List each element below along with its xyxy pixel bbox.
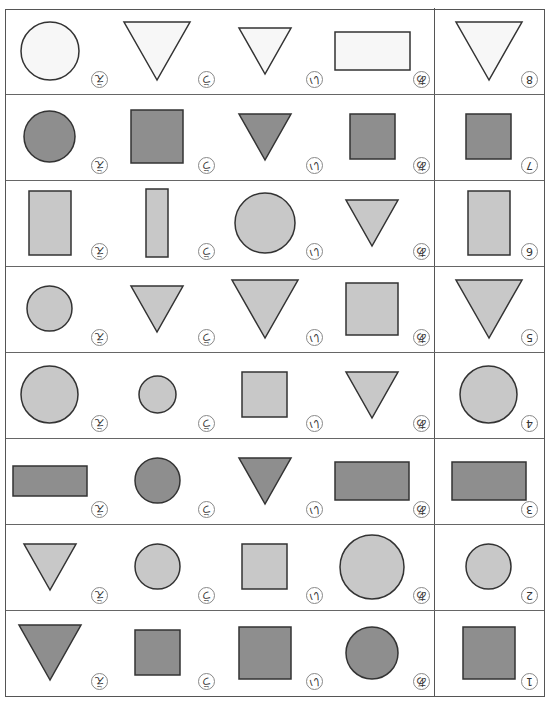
reference-square-icon: [467, 115, 512, 160]
option-cell-3[interactable]: え: [4, 353, 112, 438]
option-label-badge: あ: [413, 71, 430, 88]
worksheet: 1あいうえ2あいうえ3あいうえ4あいうえ5あいうえ6あいうえ7あいうえ8あいうえ: [0, 0, 550, 708]
option-label-badge: い: [306, 587, 323, 604]
worksheet-row-5: 5あいうえ: [6, 266, 544, 352]
option-cell-3[interactable]: え: [4, 95, 112, 180]
option-label-badge: い: [306, 673, 323, 690]
option-rectangle-icon: [29, 191, 71, 255]
option-cell-0[interactable]: あ: [327, 611, 434, 696]
option-label-badge: あ: [413, 157, 430, 174]
reference-cell: 3: [434, 439, 544, 524]
option-cell-3[interactable]: え: [4, 267, 112, 352]
row-number-badge: 3: [521, 501, 538, 518]
row-number-badge: 6: [521, 243, 538, 260]
option-cell-1[interactable]: い: [219, 95, 327, 180]
reference-cell: 5: [434, 267, 544, 352]
option-label-badge: あ: [413, 587, 430, 604]
option-cell-2[interactable]: う: [112, 181, 219, 266]
option-label-badge: え: [91, 329, 108, 346]
option-square-icon: [132, 111, 184, 164]
option-cell-3[interactable]: え: [4, 611, 112, 696]
option-cell-3[interactable]: え: [4, 439, 112, 524]
option-label-badge: え: [91, 415, 108, 432]
option-cell-1[interactable]: い: [219, 525, 327, 610]
option-circle-icon: [139, 377, 176, 414]
option-triangle-icon: [132, 286, 184, 332]
option-label-badge: え: [91, 243, 108, 260]
reference-triangle-icon: [456, 280, 522, 338]
row-number-badge: 7: [521, 157, 538, 174]
worksheet-row-2: 2あいうえ: [6, 524, 544, 610]
option-cell-0[interactable]: あ: [327, 95, 434, 180]
option-cell-1[interactable]: い: [219, 267, 327, 352]
worksheet-row-7: 7あいうえ: [6, 94, 544, 180]
option-cell-1[interactable]: い: [219, 439, 327, 524]
option-cell-3[interactable]: え: [4, 181, 112, 266]
worksheet-row-8: 8あいうえ: [6, 8, 544, 94]
reference-circle-icon: [467, 545, 512, 590]
option-cell-2[interactable]: う: [112, 525, 219, 610]
option-rectangle-icon: [13, 466, 87, 496]
option-cell-0[interactable]: あ: [327, 8, 434, 94]
option-cell-2[interactable]: う: [112, 267, 219, 352]
option-label-badge: う: [198, 673, 215, 690]
option-circle-icon: [235, 193, 295, 253]
option-cell-2[interactable]: う: [112, 439, 219, 524]
option-cell-0[interactable]: あ: [327, 525, 434, 610]
option-label-badge: あ: [413, 673, 430, 690]
row-number-badge: 2: [521, 587, 538, 604]
option-label-badge: え: [91, 501, 108, 518]
option-label-badge: え: [91, 157, 108, 174]
worksheet-row-1: 1あいうえ: [6, 610, 544, 696]
reference-rectangle-icon: [468, 191, 510, 255]
option-square-icon: [243, 545, 288, 590]
option-label-badge: う: [198, 71, 215, 88]
option-circle-icon: [25, 112, 76, 163]
reference-cell: 4: [434, 353, 544, 438]
option-cell-0[interactable]: あ: [327, 353, 434, 438]
option-cell-2[interactable]: う: [112, 611, 219, 696]
option-label-badge: あ: [413, 329, 430, 346]
option-circle-icon: [22, 367, 79, 424]
option-cell-1[interactable]: い: [219, 353, 327, 438]
worksheet-row-4: 4あいうえ: [6, 352, 544, 438]
option-label-badge: い: [306, 329, 323, 346]
option-label-badge: う: [198, 157, 215, 174]
worksheet-row-3: 3あいうえ: [6, 438, 544, 524]
option-triangle-icon: [125, 22, 191, 80]
option-cell-0[interactable]: あ: [327, 181, 434, 266]
option-label-badge: う: [198, 587, 215, 604]
option-label-badge: え: [91, 71, 108, 88]
option-cell-1[interactable]: い: [219, 181, 327, 266]
option-cell-2[interactable]: う: [112, 8, 219, 94]
option-label-badge: え: [91, 587, 108, 604]
option-triangle-icon: [24, 544, 76, 590]
reference-cell: 7: [434, 95, 544, 180]
row-number-badge: 4: [521, 415, 538, 432]
option-label-badge: あ: [413, 501, 430, 518]
option-square-icon: [243, 373, 288, 418]
option-rectangle-icon: [336, 462, 410, 500]
option-label-badge: う: [198, 415, 215, 432]
option-cell-1[interactable]: い: [219, 8, 327, 94]
option-cell-2[interactable]: う: [112, 353, 219, 438]
option-rectangle-icon: [147, 189, 169, 257]
option-circle-icon: [28, 287, 73, 332]
option-cell-1[interactable]: い: [219, 611, 327, 696]
option-cell-3[interactable]: え: [4, 525, 112, 610]
option-circle-icon: [341, 535, 405, 599]
option-cell-2[interactable]: う: [112, 95, 219, 180]
option-square-icon: [135, 631, 180, 676]
option-label-badge: い: [306, 415, 323, 432]
reference-cell: 6: [434, 181, 544, 266]
option-label-badge: う: [198, 329, 215, 346]
option-cell-0[interactable]: あ: [327, 267, 434, 352]
option-cell-3[interactable]: え: [4, 8, 112, 94]
reference-circle-icon: [461, 367, 518, 424]
option-label-badge: い: [306, 243, 323, 260]
option-cell-0[interactable]: あ: [327, 439, 434, 524]
row-number-badge: 8: [521, 71, 538, 88]
option-label-badge: い: [306, 157, 323, 174]
option-square-icon: [350, 115, 395, 160]
option-label-badge: あ: [413, 415, 430, 432]
